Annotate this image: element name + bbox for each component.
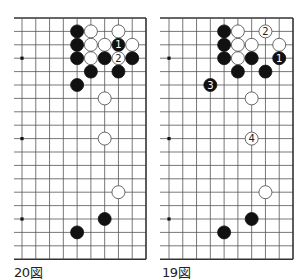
black-stone [218,226,231,239]
black-stone [71,79,84,92]
white-stone [273,38,286,51]
white-stone [98,38,111,51]
white-stone [84,38,97,51]
black-stone [126,52,139,65]
white-stone [112,186,125,199]
black-stone: 1 [273,52,286,65]
white-stone [98,132,111,145]
move-number: 1 [115,39,121,50]
go-board-diagram-19: 2134 [160,18,293,259]
black-stone [84,65,97,78]
white-stone [112,25,125,38]
black-stone [218,52,231,65]
white-stone [245,92,258,105]
black-stone [71,25,84,38]
black-stone [259,65,272,78]
black-stone [112,65,125,78]
black-stone [245,213,258,226]
black-stone: 1 [112,38,125,51]
star-point [167,137,170,140]
black-stone [231,65,244,78]
white-stone [245,38,258,51]
white-stone [84,52,97,65]
white-stone [84,25,97,38]
star-point [167,57,170,60]
black-stone [71,38,84,51]
white-stone: 2 [259,25,272,38]
go-board-diagram-20: 12 [14,18,146,259]
move-number: 3 [207,80,213,91]
black-stone [71,52,84,65]
move-number: 2 [262,26,268,37]
star-point [20,57,23,60]
black-stone [98,52,111,65]
black-stone [218,25,231,38]
black-stone: 3 [204,79,217,92]
black-stone [245,52,258,65]
star-point [20,217,23,220]
white-stone [98,92,111,105]
black-stone [98,213,111,226]
caption-diagram-19: 19図 [162,262,190,279]
white-stone [231,38,244,51]
white-stone: 2 [112,52,125,65]
star-point [20,137,23,140]
white-stone [231,25,244,38]
white-stone: 4 [245,132,258,145]
go-diagrams: 12 2134 [0,0,308,279]
move-number: 1 [276,53,282,64]
black-stone [218,38,231,51]
caption-diagram-20: 20図 [14,262,42,279]
white-stone [259,186,272,199]
white-stone [231,52,244,65]
move-number: 2 [115,53,121,64]
move-number: 4 [248,133,254,144]
black-stone [71,226,84,239]
star-point [167,217,170,220]
white-stone [126,38,139,51]
